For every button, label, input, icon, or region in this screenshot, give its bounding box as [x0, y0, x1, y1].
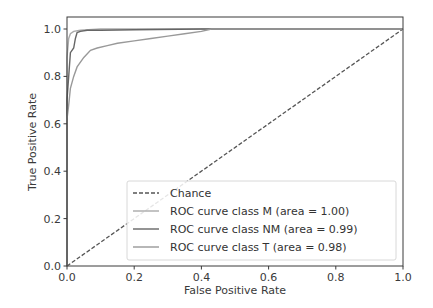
- y-axis-ticks: 0.00.20.40.60.81.0: [44, 23, 68, 273]
- roc-chart: 0.00.20.40.60.81.0 0.00.20.40.60.81.0 Fa…: [0, 0, 433, 308]
- y-tick-label: 0.6: [44, 118, 62, 131]
- x-tick-label: 0.4: [193, 271, 211, 284]
- y-tick-label: 0.2: [44, 213, 62, 226]
- x-tick-label: 0.2: [125, 271, 143, 284]
- legend-label: ROC curve class M (area = 1.00): [170, 205, 349, 218]
- x-tick-label: 1.0: [394, 271, 412, 284]
- legend-label: Chance: [170, 187, 211, 200]
- x-tick-label: 0.6: [260, 271, 278, 284]
- y-tick-label: 0.8: [44, 70, 62, 83]
- legend-label: ROC curve class T (area = 0.98): [170, 241, 347, 254]
- x-tick-label: 0.8: [327, 271, 345, 284]
- y-tick-label: 1.0: [44, 23, 62, 36]
- legend-label: ROC curve class NM (area = 0.99): [170, 223, 358, 236]
- legend: ChanceROC curve class M (area = 1.00)ROC…: [127, 181, 396, 260]
- y-axis-label: True Positive Rate: [26, 93, 39, 192]
- y-tick-label: 0.0: [44, 260, 62, 273]
- x-axis-label: False Positive Rate: [184, 284, 286, 297]
- x-axis-ticks: 0.00.20.40.60.81.0: [58, 266, 412, 284]
- y-tick-label: 0.4: [44, 165, 62, 178]
